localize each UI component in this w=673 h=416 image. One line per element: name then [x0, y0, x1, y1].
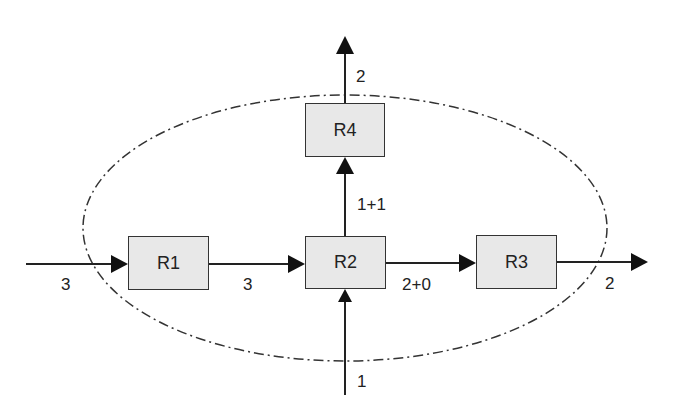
node-r3: R3: [476, 235, 557, 289]
arrowhead-icon: [631, 253, 648, 271]
node-label: R2: [334, 252, 357, 273]
diagram-canvas: [0, 0, 673, 416]
arrowhead-icon: [336, 36, 354, 54]
edge-label-r2-r3: 2+0: [402, 276, 431, 293]
node-label: R1: [157, 253, 180, 274]
arrowhead-icon: [111, 255, 128, 273]
node-r1: R1: [128, 236, 209, 290]
arrowhead-icon: [336, 157, 354, 174]
node-label: R3: [505, 252, 528, 273]
edge-label-r3-output: 2: [605, 275, 614, 292]
arrowhead-icon: [459, 254, 476, 272]
edge-label-r4-output: 2: [356, 68, 365, 85]
arrowhead-icon: [338, 289, 352, 302]
node-r2: R2: [305, 236, 386, 289]
node-label: R4: [333, 120, 356, 141]
edge-label-r2-r4: 1+1: [357, 196, 386, 213]
node-r4: R4: [305, 103, 385, 157]
edge-label-r1-r2: 3: [243, 276, 252, 293]
edge-label-input-left: 3: [61, 276, 70, 293]
edge-label-input-bottom: 1: [357, 373, 366, 390]
arrowhead-icon: [288, 255, 305, 273]
